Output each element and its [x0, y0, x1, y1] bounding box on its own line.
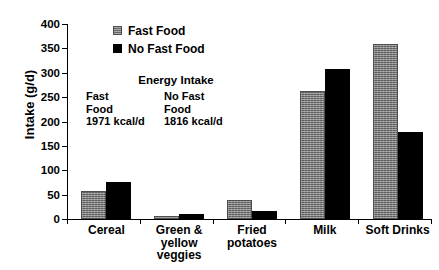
y-tick: [62, 146, 68, 147]
y-tick: [62, 24, 68, 25]
bar-no-fast-food: [252, 211, 277, 219]
y-tick-label: 200: [22, 116, 60, 128]
energy-line: Food: [86, 103, 164, 116]
bar-no-fast-food: [325, 69, 350, 219]
category-label: Soft Drinks: [348, 224, 439, 237]
legend-item-fast-food: Fast Food: [113, 23, 205, 38]
y-axis-title: Intake (g/d): [22, 35, 37, 175]
legend-item-no-fast-food: No Fast Food: [113, 41, 205, 56]
bar-no-fast-food: [106, 182, 131, 219]
energy-line: Fast: [86, 90, 164, 103]
x-axis-line: [67, 219, 431, 220]
y-tick: [62, 73, 68, 74]
y-tick: [62, 122, 68, 123]
y-tick-label: 400: [22, 18, 60, 30]
y-tick-label: 300: [22, 67, 60, 79]
category-label-line: veggies: [129, 249, 229, 262]
bar-chart: Intake (g/d) 050100150200250300350400 Ce…: [0, 0, 439, 270]
legend-label: No Fast Food: [128, 42, 205, 56]
y-tick: [62, 48, 68, 49]
y-tick-label: 350: [22, 42, 60, 54]
energy-intake-annotation: Energy Intake Fast Food 1971 kcal/d No F…: [86, 74, 246, 128]
bar-fast-food: [81, 191, 106, 219]
bar-fast-food: [300, 91, 325, 219]
energy-intake-fast-food-column: Fast Food 1971 kcal/d: [86, 90, 164, 128]
y-tick-label: 250: [22, 91, 60, 103]
legend-swatch-gray-icon: [113, 26, 122, 35]
y-tick-label: 100: [22, 164, 60, 176]
y-tick: [62, 97, 68, 98]
bar-fast-food: [227, 200, 252, 219]
y-tick-label: 150: [22, 140, 60, 152]
energy-line: 1971 kcal/d: [86, 115, 164, 128]
energy-line: 1816 kcal/d: [164, 115, 246, 128]
legend-label: Fast Food: [128, 24, 185, 38]
y-tick: [62, 195, 68, 196]
y-tick: [62, 170, 68, 171]
energy-intake-title: Energy Intake: [106, 74, 246, 86]
y-tick-label: 50: [22, 189, 60, 201]
bar-no-fast-food: [179, 214, 204, 219]
bar-fast-food: [373, 44, 398, 220]
energy-intake-no-fast-food-column: No Fast Food 1816 kcal/d: [164, 90, 246, 128]
energy-line: Food: [164, 103, 246, 116]
bar-no-fast-food: [398, 132, 423, 219]
bar-fast-food: [154, 216, 179, 219]
category-label-line: Soft Drinks: [348, 224, 439, 237]
energy-line: No Fast: [164, 90, 246, 103]
legend-swatch-black-icon: [113, 44, 122, 53]
category-label-line: potatoes: [202, 237, 302, 250]
legend: Fast Food No Fast Food: [113, 23, 205, 59]
y-tick-label: 0: [22, 213, 60, 225]
